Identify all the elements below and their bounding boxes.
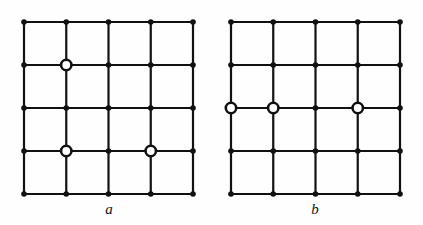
lattice-node bbox=[21, 148, 27, 154]
lattice-node bbox=[21, 191, 27, 197]
lattice-node bbox=[313, 191, 319, 197]
panel-a bbox=[21, 19, 196, 197]
lattice-node bbox=[106, 62, 112, 68]
lattice-open-node bbox=[146, 146, 156, 156]
panel-label-b: b bbox=[295, 200, 335, 218]
lattice-node bbox=[397, 148, 403, 154]
lattice-node bbox=[21, 105, 27, 111]
lattice-node bbox=[313, 148, 319, 154]
lattice-node bbox=[106, 191, 112, 197]
lattice-node bbox=[355, 19, 361, 25]
lattice-node bbox=[270, 191, 276, 197]
lattice-node bbox=[313, 62, 319, 68]
lattice-node bbox=[270, 62, 276, 68]
lattice-node bbox=[106, 19, 112, 25]
lattice-node bbox=[63, 19, 69, 25]
lattice-node bbox=[355, 191, 361, 197]
lattice-node bbox=[190, 105, 196, 111]
lattice-node bbox=[228, 19, 234, 25]
lattice-open-node bbox=[61, 146, 71, 156]
lattice-node bbox=[270, 19, 276, 25]
lattice-node bbox=[21, 62, 27, 68]
lattice-node bbox=[190, 148, 196, 154]
lattice-node bbox=[228, 62, 234, 68]
lattice-open-node bbox=[226, 103, 236, 113]
lattice-figure bbox=[0, 0, 423, 225]
lattice-node bbox=[21, 19, 27, 25]
lattice-node bbox=[63, 191, 69, 197]
lattice-node bbox=[148, 19, 154, 25]
lattice-node bbox=[190, 62, 196, 68]
lattice-node bbox=[190, 191, 196, 197]
lattice-node bbox=[148, 62, 154, 68]
lattice-node bbox=[270, 148, 276, 154]
lattice-node bbox=[148, 191, 154, 197]
lattice-open-node bbox=[61, 60, 71, 70]
lattice-node bbox=[106, 105, 112, 111]
lattice-node bbox=[397, 105, 403, 111]
lattice-node bbox=[397, 19, 403, 25]
lattice-node bbox=[106, 148, 112, 154]
lattice-open-node bbox=[268, 103, 278, 113]
figure-canvas: a b bbox=[0, 0, 423, 225]
lattice-node bbox=[190, 19, 196, 25]
lattice-node bbox=[228, 191, 234, 197]
lattice-node bbox=[355, 62, 361, 68]
lattice-node bbox=[313, 105, 319, 111]
lattice-node bbox=[148, 105, 154, 111]
panel-label-a: a bbox=[89, 200, 129, 218]
lattice-node bbox=[355, 148, 361, 154]
lattice-open-node bbox=[353, 103, 363, 113]
lattice-node bbox=[228, 148, 234, 154]
lattice-node bbox=[63, 105, 69, 111]
lattice-node bbox=[313, 19, 319, 25]
lattice-node bbox=[397, 62, 403, 68]
lattice-node bbox=[397, 191, 403, 197]
panel-b bbox=[226, 19, 403, 197]
